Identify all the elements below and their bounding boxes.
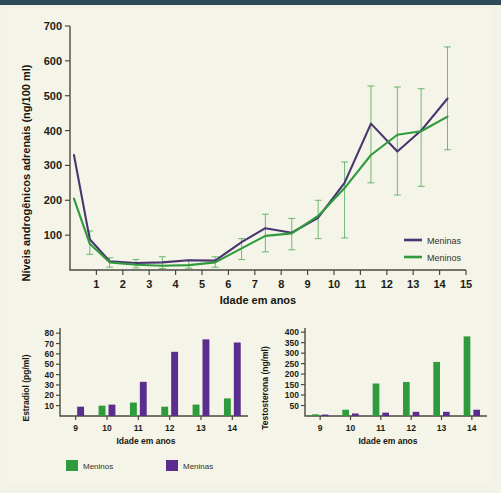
main-y-tick-label: 300 xyxy=(44,159,62,171)
main-y-tick-label: 400 xyxy=(44,125,62,137)
estradiol-x-axis-title: Idade em anos xyxy=(116,436,175,446)
estradiol-y-tick-label: 70 xyxy=(45,339,55,349)
main-error-bar xyxy=(418,89,425,187)
main-axis-lines xyxy=(70,26,466,270)
estradiol-y-tick-label: 40 xyxy=(45,370,55,380)
figure-plate: 1002003004005006007001234567891011121314… xyxy=(8,8,493,485)
main-error-bar xyxy=(367,86,374,183)
estradiol-y-tick-label: 30 xyxy=(45,380,55,390)
testosterona-x-tick-label: 12 xyxy=(406,423,416,433)
testosterona-axis-lines xyxy=(305,328,487,416)
testosterona-x-tick-label: 9 xyxy=(318,423,323,433)
shared-legend-swatch-meninas xyxy=(166,460,178,471)
main-x-tick-label: 15 xyxy=(460,278,472,290)
testosterona-y-tick-label: 300 xyxy=(285,348,299,358)
testosterona-x-tick-label: 11 xyxy=(376,423,385,433)
estradiol-bar-meninos-14 xyxy=(224,398,231,416)
estradiol-x-tick-label: 14 xyxy=(228,423,238,433)
testosterona-bar-meninas-9 xyxy=(322,415,329,416)
estradiol-bars xyxy=(77,339,241,416)
main-x-tick-label: 11 xyxy=(355,278,367,290)
legend-label-meninos: Meninos xyxy=(427,253,462,263)
main-y-tick-label: 100 xyxy=(44,229,62,241)
shared-legend-label-meninas: Meninas xyxy=(183,462,213,471)
estradiol-y-tick-label: 80 xyxy=(45,328,55,338)
main-line-chart: 1002003004005006007001234567891011121314… xyxy=(8,8,493,318)
estradiol-x-tick-label: 9 xyxy=(73,423,78,433)
testosterona-bar-meninos-11 xyxy=(373,384,380,416)
testosterona-bar-chart: 5010015020025030035040091011121314 Testo… xyxy=(255,320,493,455)
shared-legend-swatch-meninos xyxy=(66,460,78,471)
estradiol-x-tick-label: 13 xyxy=(196,423,206,433)
main-x-axis-title: Idade em anos xyxy=(220,294,296,306)
estradiol-x-tick-label: 12 xyxy=(165,423,175,433)
main-x-tick-label: 5 xyxy=(199,278,205,290)
legend-label-meninas: Meninas xyxy=(427,236,462,246)
main-x-tick-label: 6 xyxy=(225,278,231,290)
main-x-tick-label: 7 xyxy=(252,278,258,290)
main-series-lines xyxy=(74,99,448,266)
main-x-tick-label: 10 xyxy=(328,278,340,290)
main-x-tick-label: 13 xyxy=(407,278,419,290)
main-line-meninos xyxy=(74,117,448,266)
estradiol-bar-meninos-13 xyxy=(193,405,200,416)
testosterona-x-tick-label: 14 xyxy=(467,423,477,433)
testosterona-bar-meninas-13 xyxy=(443,412,450,416)
shared-legend-label-meninos: Meninos xyxy=(83,462,113,471)
testosterona-bar-meninas-14 xyxy=(473,410,480,416)
main-x-tick-label: 1 xyxy=(93,278,99,290)
main-x-tick-label: 2 xyxy=(120,278,126,290)
testosterona-y-axis-title: Testosterona (ng/ml) xyxy=(260,346,270,430)
main-y-axis-title: Níveis androgênicos adrenais (ng/100 ml) xyxy=(20,64,32,281)
estradiol-bar-meninos-11 xyxy=(130,403,137,416)
testosterona-bar-meninos-10 xyxy=(342,410,349,416)
testosterona-y-tick-label: 50 xyxy=(290,401,300,411)
testosterona-bar-meninos-12 xyxy=(403,382,410,416)
estradiol-bar-meninos-12 xyxy=(161,407,168,416)
estradiol-y-tick-label: 60 xyxy=(45,349,55,359)
testosterona-x-axis-title: Idade em anos xyxy=(358,436,417,446)
main-axes: 1002003004005006007001234567891011121314… xyxy=(44,20,472,290)
estradiol-axes: 102030405060708091011121314 xyxy=(45,328,248,433)
estradiol-bar-meninas-9 xyxy=(77,407,84,416)
estradiol-x-tick-label: 10 xyxy=(102,423,112,433)
estradiol-bar-meninas-13 xyxy=(203,339,210,416)
testosterona-y-tick-label: 400 xyxy=(285,327,299,337)
estradiol-y-axis-title: Estradiol (pg/ml) xyxy=(21,354,31,421)
main-error-bar xyxy=(262,214,269,252)
main-y-tick-label: 200 xyxy=(44,194,62,206)
main-x-tick-label: 9 xyxy=(305,278,311,290)
top-accent-bar xyxy=(0,0,501,5)
main-x-tick-label: 8 xyxy=(278,278,284,290)
testosterona-y-tick-label: 200 xyxy=(285,369,299,379)
testosterona-bar-meninos-13 xyxy=(433,362,440,416)
testosterona-bars xyxy=(312,336,480,416)
estradiol-bar-meninos-10 xyxy=(99,406,106,416)
testosterona-bar-meninas-12 xyxy=(413,412,420,416)
estradiol-y-tick-label: 20 xyxy=(45,390,55,400)
testosterona-x-tick-label: 13 xyxy=(437,423,447,433)
main-x-tick-label: 4 xyxy=(173,278,180,290)
testosterona-bar-meninas-11 xyxy=(382,413,389,416)
estradiol-bar-meninas-14 xyxy=(234,342,241,416)
estradiol-bar-chart: 102030405060708091011121314 Estradiol (p… xyxy=(16,320,254,455)
main-y-tick-label: 700 xyxy=(44,20,62,32)
testosterona-bar-meninas-10 xyxy=(352,413,359,416)
testosterona-bar-meninos-14 xyxy=(464,336,471,416)
estradiol-x-tick-label: 11 xyxy=(134,423,143,433)
estradiol-y-tick-label: 50 xyxy=(45,359,55,369)
main-x-tick-label: 12 xyxy=(381,278,393,290)
main-error-bar xyxy=(394,87,401,195)
testosterona-bar-meninos-9 xyxy=(312,414,319,416)
testosterona-y-tick-label: 250 xyxy=(285,359,299,369)
main-error-bar xyxy=(341,162,348,238)
estradiol-y-tick-label: 10 xyxy=(45,401,55,411)
testosterona-y-tick-label: 100 xyxy=(285,390,299,400)
shared-legend[interactable]: MeninosMeninas xyxy=(56,453,306,479)
main-legend[interactable]: MeninasMeninos xyxy=(404,236,462,263)
main-y-tick-label: 500 xyxy=(44,90,62,102)
estradiol-axis-lines xyxy=(60,328,248,416)
testosterona-x-tick-label: 10 xyxy=(346,423,356,433)
main-x-tick-label: 14 xyxy=(433,278,446,290)
main-x-tick-label: 3 xyxy=(146,278,152,290)
